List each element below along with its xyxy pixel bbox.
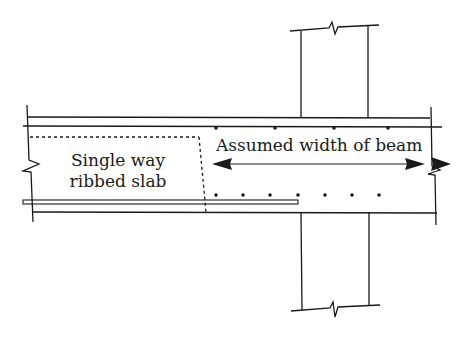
arrow-head-right [405, 158, 425, 170]
break-line-bottom [291, 302, 380, 317]
bottom-reinforcement-bar [23, 200, 298, 204]
column-above [290, 22, 379, 118]
bottom-reinforcement-dots [214, 193, 381, 197]
slab-label-line2: ribbed slab [66, 171, 170, 192]
slab-label: Single way ribbed slab [66, 150, 170, 192]
slab-bottom-line [33, 212, 437, 213]
slab-top-line [28, 117, 430, 118]
arrow-head-left [212, 158, 232, 170]
break-line-top [290, 22, 379, 34]
beam-width-label: Assumed width of beam [216, 137, 422, 154]
slab-label-line1: Single way [66, 150, 170, 171]
column-below [291, 213, 380, 317]
slab-top-inner-line [23, 126, 442, 127]
arrow-head-outer [431, 157, 451, 171]
